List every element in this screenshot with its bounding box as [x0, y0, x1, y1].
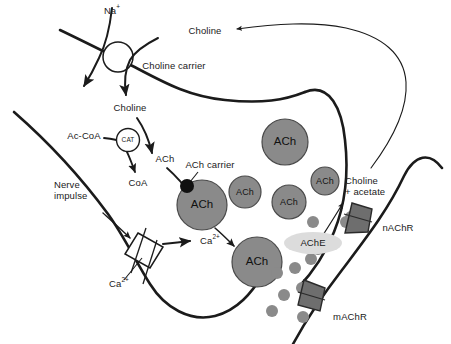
- vesicle-label-vesicle-mid-right: ACh: [280, 197, 298, 207]
- nerve-impulse-line-2: impulse: [54, 191, 87, 202]
- presynaptic-membrane: [14, 30, 347, 317]
- label-choline-extracellular: Choline: [189, 26, 222, 37]
- acetylcholine-dot-7: [278, 289, 290, 301]
- acetylcholine-dot-2: [305, 253, 317, 265]
- label-ach-new: ACh: [156, 154, 175, 165]
- label-coa: CoA: [129, 178, 148, 189]
- label-ac-coa: Ac-CoA: [67, 131, 100, 142]
- label-ach-carrier: ACh carrier: [185, 160, 234, 171]
- label-muscarinic-receptor: mAChR: [333, 312, 367, 323]
- calcium-influx-arrow: [163, 241, 190, 244]
- ach-carrier-dot: [180, 179, 194, 193]
- label-calcium-channel: Ca2+: [109, 279, 129, 290]
- diagram-canvas: [0, 0, 451, 344]
- label-calcium-influx: Ca2+: [200, 236, 220, 247]
- nerve-impulse-arrow: [103, 213, 130, 238]
- label-nerve-impulse: Nerve impulse: [54, 180, 87, 202]
- label-sodium-ion: Na+: [104, 6, 120, 17]
- vesicle-label-vesicle-loading: ACh: [191, 198, 214, 211]
- acetylcholine-dot-9: [266, 305, 278, 317]
- acetylcholine-dot-0: [271, 267, 283, 279]
- label-choline-carrier: Choline carrier: [142, 61, 205, 72]
- label-products: Choline + acetate: [345, 176, 385, 198]
- choline-carrier-channel: [103, 42, 133, 72]
- vesicle-label-vesicle-top: ACh: [274, 135, 297, 148]
- label-cat-enzyme: CAT: [122, 136, 135, 143]
- cholinergic-synapse-diagram: Na+ Choline Choline carrier Choline Ac-C…: [0, 0, 451, 344]
- vesicle-label-vesicle-fusing: ACh: [246, 255, 269, 268]
- vesicle-label-vesicle-upper-right: ACh: [316, 176, 334, 186]
- label-ache-enzyme: AChE: [300, 238, 325, 249]
- acetylcholine-dot-10: [297, 311, 309, 323]
- label-nicotinic-receptor: nAChR: [382, 223, 413, 234]
- label-choline-intracellular: Choline: [114, 103, 147, 114]
- nicotinic-receptor-shape[interactable]: [344, 203, 372, 233]
- acetylcholine-dot-3: [307, 216, 319, 228]
- products-line-2: + acetate: [345, 187, 385, 198]
- acetylcholine-dot-1: [289, 262, 301, 274]
- vesicle-label-vesicle-mid-left: ACh: [236, 187, 254, 197]
